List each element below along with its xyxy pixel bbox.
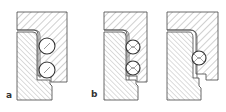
panel-a: [17, 12, 67, 100]
panel-c: [167, 12, 218, 100]
bearing-diagram: [0, 0, 226, 112]
panel-label-a: a: [6, 90, 12, 100]
ball-c1: [192, 51, 206, 65]
panel-label-b: b: [91, 89, 97, 99]
ball-b1: [126, 40, 140, 54]
ball-b2: [126, 61, 140, 75]
panel-b: [104, 12, 147, 100]
